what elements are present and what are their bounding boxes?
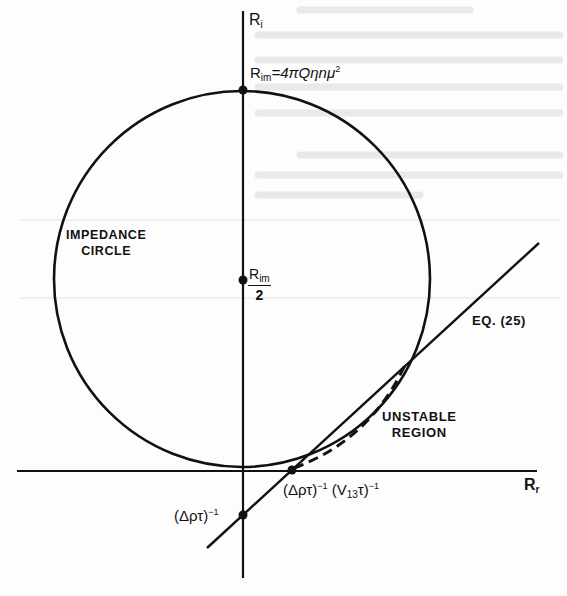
- label-b-open: (V: [332, 481, 347, 498]
- y-intercept-label: (Δρτ)−1: [174, 508, 219, 523]
- label-sub: im: [261, 72, 272, 83]
- unstable-region-label: UNSTABLE REGION: [382, 409, 457, 442]
- sup-b: −1: [369, 481, 379, 491]
- point-y-intercept: [239, 511, 248, 520]
- fraction-denominator: 2: [255, 286, 263, 302]
- equation-ref-text: EQ. (25): [472, 313, 526, 328]
- figure-canvas: Ri Rr Rim=4πQηnμ2 Rim 2 IMPEDANCE CIRCLE…: [0, 0, 567, 596]
- label-b-close: τ): [358, 481, 369, 498]
- horizontal-axis-label: Rr: [524, 477, 539, 495]
- label-sub: i: [261, 19, 263, 30]
- num-base: R: [249, 266, 259, 282]
- label-a: (Δρτ): [283, 481, 317, 498]
- x-intercept-label: (Δρτ)−1 (V13τ)−1: [283, 482, 379, 500]
- label-sub: r: [536, 484, 540, 495]
- label-sup: −1: [208, 507, 218, 517]
- label-base: R: [250, 64, 261, 81]
- label-line-2: REGION: [382, 425, 457, 441]
- equation-reference-label: EQ. (25): [472, 313, 526, 329]
- label-line-1: UNSTABLE: [382, 409, 457, 425]
- fraction: Rim 2: [248, 267, 271, 302]
- label-text: (Δρτ): [174, 507, 208, 524]
- point-x-intercept: [288, 466, 297, 475]
- diagram-geometry: [0, 0, 567, 596]
- label-base: R: [249, 11, 261, 28]
- label-line-1: IMPEDANCE: [66, 228, 146, 244]
- rim-half-label: Rim 2: [248, 266, 271, 302]
- impedance-circle-label: IMPEDANCE CIRCLE: [66, 228, 146, 259]
- num-sub: im: [259, 273, 270, 284]
- fraction-numerator: Rim: [248, 267, 271, 286]
- label-b-sub: 13: [347, 489, 358, 500]
- sup-a: −1: [317, 481, 327, 491]
- point-rim: [239, 86, 248, 95]
- point-rim-half: [239, 276, 248, 285]
- rim-formula-label: Rim=4πQηnμ2: [250, 65, 340, 83]
- vertical-axis-label: Ri: [249, 12, 263, 30]
- label-line-2: CIRCLE: [66, 244, 146, 260]
- label-base: R: [524, 476, 536, 493]
- label-equation: =4πQηnμ: [271, 64, 335, 81]
- label-sup: 2: [335, 64, 340, 74]
